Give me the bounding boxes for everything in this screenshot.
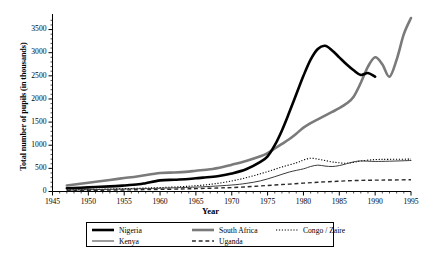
y-tick-label: 0 xyxy=(13,187,47,195)
legend-item-nigeria[interactable]: Nigeria xyxy=(91,225,142,236)
x-tick-label: 1990 xyxy=(355,198,395,206)
y-tick-label: 2500 xyxy=(13,72,47,80)
legend-item-congo-zaire[interactable]: Congo / Zaire xyxy=(275,225,345,236)
x-axis-title: Year xyxy=(0,206,421,216)
x-tick-label: 1955 xyxy=(104,198,144,206)
x-tick-label: 1970 xyxy=(212,198,252,206)
data-series xyxy=(67,18,411,191)
axes xyxy=(49,14,412,196)
line-chart: Total number of pupils (in thousands) Ye… xyxy=(0,0,421,257)
y-tick-label: 3500 xyxy=(13,25,47,33)
y-tick-label: 1000 xyxy=(13,141,47,149)
legend-swatch-icon xyxy=(91,225,115,235)
x-tick-label: 1985 xyxy=(319,198,359,206)
x-tick-label: 1945 xyxy=(33,198,73,206)
series-line-south-africa xyxy=(67,18,411,185)
legend-label: South Africa xyxy=(219,226,258,235)
legend-swatch-icon xyxy=(275,225,299,235)
y-tick-label: 2000 xyxy=(13,95,47,103)
x-tick-label: 1950 xyxy=(68,198,108,206)
plot-area xyxy=(0,0,421,257)
legend-swatch-icon xyxy=(191,225,215,235)
legend-label: Nigeria xyxy=(119,226,142,235)
legend-swatch-icon xyxy=(91,236,115,246)
chart-legend: NigeriaKenyaSouth AfricaUgandaCongo / Za… xyxy=(86,222,334,247)
x-tick-label: 1960 xyxy=(140,198,180,206)
legend-swatch-icon xyxy=(191,236,215,246)
legend-label: Kenya xyxy=(119,237,139,246)
legend-item-uganda[interactable]: Uganda xyxy=(191,236,243,247)
legend-item-south-africa[interactable]: South Africa xyxy=(191,225,258,236)
legend-label: Congo / Zaire xyxy=(303,226,345,235)
legend-item-kenya[interactable]: Kenya xyxy=(91,236,139,247)
x-tick-label: 1995 xyxy=(391,198,421,206)
x-tick-label: 1975 xyxy=(248,198,288,206)
y-tick-label: 1500 xyxy=(13,118,47,126)
y-tick-label: 3000 xyxy=(13,48,47,56)
y-tick-label: 500 xyxy=(13,164,47,172)
x-tick-label: 1980 xyxy=(283,198,323,206)
legend-label: Uganda xyxy=(219,237,243,246)
x-tick-label: 1965 xyxy=(176,198,216,206)
